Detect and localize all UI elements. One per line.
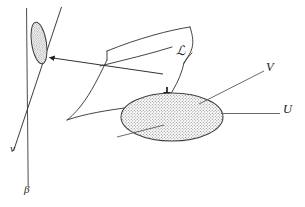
figure-caption (12, 196, 302, 207)
label-line-beta: β (24, 184, 29, 195)
leader-line-v (199, 71, 264, 104)
label-line-nu: ν (10, 143, 15, 154)
figure-vector-graphics (0, 0, 305, 207)
beta-line (27, 8, 29, 186)
large-stippled-ellipse (121, 93, 223, 141)
figure-canvas: ℒ V U ν β (0, 0, 305, 207)
label-vector-v: V (266, 61, 274, 74)
label-set-u: U (283, 103, 292, 116)
small-stippled-ellipse (28, 21, 49, 65)
arrow-to-small-ellipse (50, 58, 164, 75)
label-surface-script-s: ℒ (176, 44, 185, 57)
